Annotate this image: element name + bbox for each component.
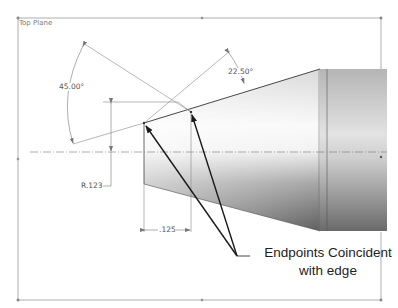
length-label[interactable]: .125: [159, 226, 176, 234]
angle-22-label[interactable]: 22.50°: [228, 68, 253, 76]
callout-line2: with edge: [253, 262, 398, 280]
angle-45-label[interactable]: 45.00°: [59, 83, 84, 91]
angle-45-arc[interactable]: [67, 46, 83, 143]
radius-label[interactable]: R.123: [81, 182, 103, 190]
part-body[interactable]: [144, 69, 387, 231]
cylinder-surface[interactable]: [320, 69, 387, 231]
callout-note: Endpoints Coincident with edge: [253, 244, 398, 280]
sketch-point[interactable]: [143, 122, 145, 124]
callout-line1: Endpoints Coincident: [253, 244, 398, 262]
sketch-point[interactable]: [380, 156, 382, 158]
sketch-point[interactable]: [190, 111, 192, 113]
radius-dimension[interactable]: [101, 103, 111, 186]
plane-label: Top Plane: [19, 19, 52, 27]
